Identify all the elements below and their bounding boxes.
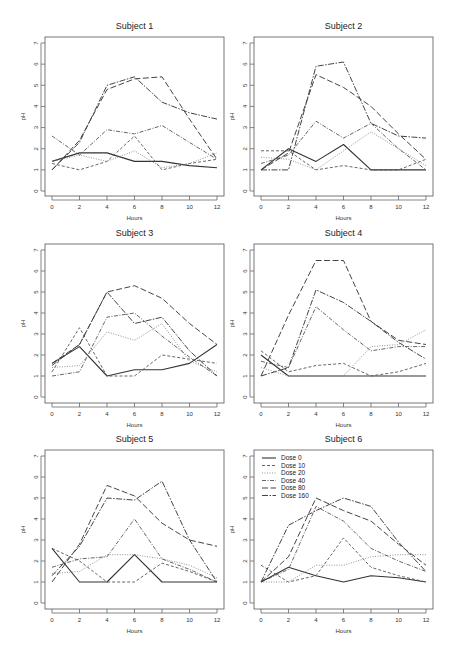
panel-subject-6: Subject 601234567pH024681012HoursDose 0D… — [229, 434, 433, 634]
y-tick-label: 4 — [33, 517, 39, 521]
x-tick-label: 8 — [369, 617, 373, 623]
series-dose-40 — [261, 121, 426, 170]
series-dose-160 — [261, 62, 426, 170]
y-tick-label: 1 — [242, 580, 248, 584]
y-tick-label: 5 — [33, 83, 39, 87]
y-tick-label: 4 — [33, 104, 39, 108]
series-dose-20 — [52, 555, 217, 578]
series-dose-80 — [261, 261, 426, 377]
x-tick-label: 6 — [133, 411, 137, 417]
y-tick-label: 5 — [33, 290, 39, 294]
x-tick-label: 6 — [133, 617, 137, 623]
panel-subject-2: Subject 201234567pH024681012Hours — [229, 21, 433, 221]
x-tick-label: 4 — [105, 617, 109, 623]
series-dose-0 — [261, 567, 426, 582]
y-tick-label: 5 — [242, 290, 248, 294]
x-tick-label: 0 — [259, 617, 263, 623]
y-tick-label: 6 — [242, 62, 248, 66]
x-tick-label: 2 — [78, 204, 82, 210]
x-tick-label: 12 — [214, 411, 221, 417]
panel-title: Subject 4 — [325, 228, 363, 238]
y-tick-label: 1 — [33, 580, 39, 584]
series-dose-80 — [261, 498, 426, 582]
y-tick-label: 6 — [33, 62, 39, 66]
x-tick-label: 0 — [50, 617, 54, 623]
y-tick-label: 7 — [242, 248, 248, 252]
panel-subject-4: Subject 401234567pH024681012Hours — [229, 228, 433, 428]
y-tick-label: 3 — [242, 538, 248, 542]
y-tick-label: 6 — [33, 269, 39, 273]
y-tick-label: 5 — [242, 83, 248, 87]
y-tick-label: 1 — [242, 374, 248, 378]
x-tick-label: 6 — [342, 204, 346, 210]
x-tick-label: 6 — [342, 411, 346, 417]
plot-frame — [45, 37, 224, 196]
y-axis-label: pH — [229, 113, 235, 121]
x-tick-label: 10 — [186, 204, 193, 210]
panel-title: Subject 2 — [325, 21, 363, 31]
x-axis-label: Hours — [126, 215, 142, 221]
y-tick-label: 3 — [33, 125, 39, 129]
series-dose-0 — [52, 548, 217, 582]
y-tick-label: 2 — [33, 559, 39, 563]
series-dose-40 — [261, 307, 426, 368]
x-tick-label: 12 — [423, 204, 430, 210]
x-tick-label: 0 — [259, 411, 263, 417]
x-axis-label: Hours — [126, 422, 142, 428]
y-axis-label: pH — [20, 113, 26, 121]
series-dose-10 — [261, 151, 426, 170]
plot-frame — [45, 244, 224, 403]
series-dose-80 — [52, 286, 217, 364]
y-tick-label: 3 — [33, 538, 39, 542]
y-axis-label: pH — [20, 320, 26, 328]
legend-label: Dose 0 — [281, 454, 302, 461]
x-tick-label: 6 — [133, 204, 137, 210]
y-tick-label: 6 — [242, 475, 248, 479]
y-tick-label: 7 — [242, 41, 248, 45]
series-dose-40 — [52, 313, 217, 376]
y-tick-label: 3 — [242, 125, 248, 129]
y-tick-label: 2 — [33, 146, 39, 150]
x-tick-label: 10 — [395, 617, 402, 623]
x-tick-label: 0 — [50, 411, 54, 417]
panel-subject-5: Subject 501234567pH024681012Hours — [20, 434, 224, 634]
x-tick-label: 4 — [314, 204, 318, 210]
x-tick-label: 8 — [369, 204, 373, 210]
y-tick-label: 4 — [242, 104, 248, 108]
y-tick-label: 0 — [33, 395, 39, 399]
y-tick-label: 2 — [242, 353, 248, 357]
series-dose-0 — [52, 153, 217, 168]
series-dose-0 — [261, 145, 426, 170]
panel-title: Subject 3 — [116, 228, 154, 238]
y-tick-label: 2 — [242, 559, 248, 563]
plot-frame — [254, 244, 433, 403]
x-tick-label: 0 — [50, 204, 54, 210]
x-tick-label: 8 — [160, 411, 164, 417]
y-tick-label: 3 — [33, 332, 39, 336]
y-tick-label: 7 — [242, 454, 248, 458]
plot-frame — [45, 450, 224, 609]
x-tick-label: 12 — [423, 617, 430, 623]
y-axis-label: pH — [229, 526, 235, 534]
x-axis-label: Hours — [126, 628, 142, 634]
panel-title: Subject 5 — [116, 434, 154, 444]
x-tick-label: 8 — [369, 411, 373, 417]
x-tick-label: 10 — [186, 411, 193, 417]
series-dose-10 — [52, 548, 217, 582]
x-tick-label: 4 — [105, 411, 109, 417]
x-tick-label: 2 — [78, 617, 82, 623]
series-dose-20 — [261, 330, 426, 376]
legend-label: Dose 80 — [281, 484, 306, 491]
x-tick-label: 8 — [160, 617, 164, 623]
x-tick-label: 10 — [186, 617, 193, 623]
y-tick-label: 0 — [242, 189, 248, 193]
y-tick-label: 5 — [33, 496, 39, 500]
panel-subject-1: Subject 101234567pH024681012Hours — [20, 21, 224, 221]
y-tick-label: 7 — [33, 454, 39, 458]
panel-title: Subject 1 — [116, 21, 154, 31]
y-tick-label: 0 — [242, 601, 248, 605]
y-tick-label: 2 — [242, 146, 248, 150]
legend-label: Dose 10 — [281, 462, 306, 469]
x-tick-label: 12 — [214, 617, 221, 623]
y-tick-label: 1 — [33, 168, 39, 172]
